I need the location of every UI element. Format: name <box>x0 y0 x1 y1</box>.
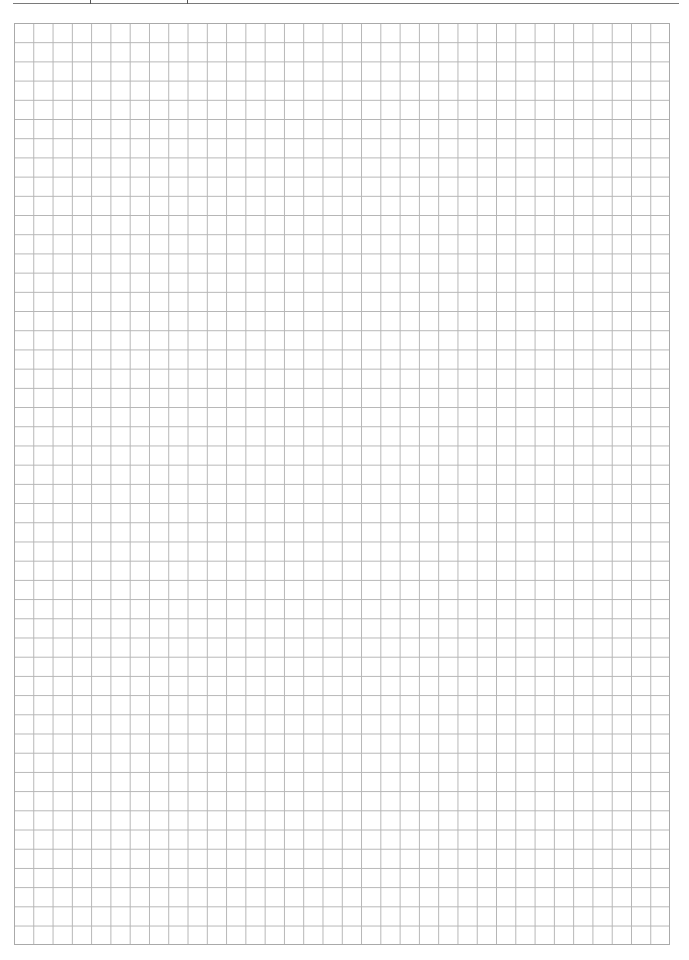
header-tick <box>90 0 91 4</box>
graph-paper-grid <box>14 23 670 945</box>
header-rule <box>13 3 679 4</box>
header-tick <box>187 0 188 4</box>
